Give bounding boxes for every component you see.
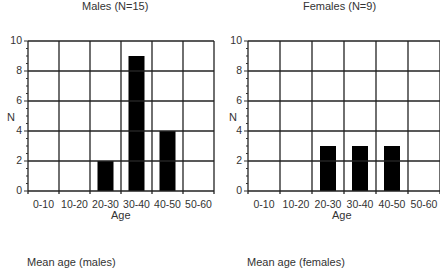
y-tick-label: 4 bbox=[222, 124, 242, 136]
x-tick-label: 40-50 bbox=[376, 198, 408, 210]
bar-40-50 bbox=[384, 146, 400, 191]
y-tick-label: 6 bbox=[222, 94, 242, 106]
mean-age-females-label: Mean age (females) bbox=[247, 256, 345, 268]
x-tick-label: 50-60 bbox=[408, 198, 440, 210]
x-tick-label: 30-40 bbox=[344, 198, 376, 210]
plot-area bbox=[0, 0, 439, 215]
y-tick-label: 2 bbox=[222, 154, 242, 166]
y-tick-label: 8 bbox=[222, 64, 242, 76]
bar-30-40 bbox=[352, 146, 368, 191]
bar-20-30 bbox=[320, 146, 336, 191]
y-tick-label: 10 bbox=[222, 34, 242, 46]
x-tick-label: 20-30 bbox=[312, 198, 344, 210]
x-tick-label: 10-20 bbox=[280, 198, 312, 210]
mean-age-males-label: Mean age (males) bbox=[27, 256, 116, 268]
x-tick-label: 0-10 bbox=[248, 198, 280, 210]
y-tick-label: 0 bbox=[222, 184, 242, 196]
